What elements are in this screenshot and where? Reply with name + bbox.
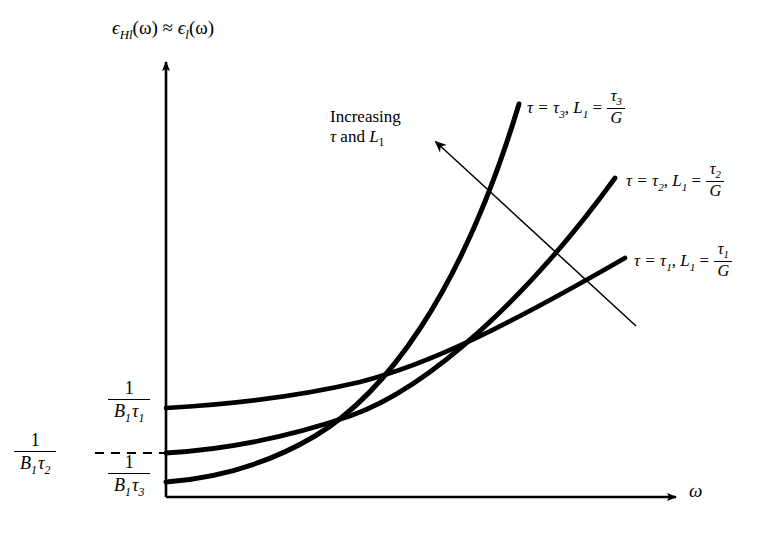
curve1-tau-eq: τ = τ — [634, 251, 666, 270]
figure-canvas: ϵHl(ω) ≈ ϵl(ω) ω Increasing τ and L1 τ =… — [0, 0, 780, 533]
curve3-frac-denominator: G — [607, 108, 625, 126]
curve2-frac-denominator: G — [706, 181, 724, 199]
curve1-frac-denominator: G — [714, 261, 732, 279]
x-axis-label: ω — [689, 481, 702, 501]
curve-tau1 — [166, 258, 625, 408]
L-symbol: L — [369, 127, 378, 146]
curve3-tau-eq: τ = τ — [527, 98, 559, 117]
curve3-fraction: τ3G — [607, 87, 625, 126]
epsilon-Hl-argument: (ω) — [133, 17, 158, 38]
curve1-L: L — [680, 251, 689, 270]
curve-label-tau2: τ = τ2, L1 = τ2G — [626, 163, 725, 202]
curve2-comma: , — [664, 171, 673, 190]
curve2-fraction: τ2G — [706, 160, 724, 199]
curve1-frac-numerator: τ1 — [715, 240, 732, 261]
curve-tau3 — [166, 104, 519, 482]
curve1-equals: = — [695, 251, 713, 270]
curve-label-tau1: τ = τ1, L1 = τ1G — [634, 243, 733, 282]
increasing-line1: Increasing — [330, 107, 401, 126]
curve1-fraction: τ1G — [714, 240, 732, 279]
y-axis-label: ϵHl(ω) ≈ ϵl(ω) — [112, 18, 214, 41]
val3-numerator: 1 — [108, 452, 150, 473]
curve1-comma: , — [672, 251, 681, 270]
curve2-frac-numerator: τ2 — [707, 160, 724, 181]
curve3-frac-numerator: τ3 — [608, 87, 625, 108]
approx-symbol: ≈ — [162, 17, 172, 38]
L-subscript: 1 — [379, 136, 385, 149]
curve-label-tau3: τ = τ3, L1 = τ3G — [527, 90, 626, 129]
curve2-equals: = — [687, 171, 705, 190]
curve2-L: L — [672, 171, 681, 190]
epsilon-Hl-symbol: ϵ — [112, 17, 120, 38]
curve3-comma: , — [565, 98, 574, 117]
y-value-1-over-B1tau3: 1 B1τ3 — [108, 452, 150, 500]
curve3-equals: = — [588, 98, 606, 117]
y-value-1-over-B1tau2: 1 B1τ2 — [14, 430, 56, 478]
val1-numerator: 1 — [108, 378, 150, 399]
val3-denominator: B1τ3 — [108, 473, 150, 500]
curve2-tau-eq: τ = τ — [626, 171, 658, 190]
increasing-arrow — [436, 142, 636, 326]
curve-tau2 — [166, 178, 615, 453]
and-text: and — [336, 127, 369, 146]
epsilon-Hl-subscript: Hl — [120, 27, 133, 42]
curve3-L: L — [573, 98, 582, 117]
increasing-line2: τ and L1 — [330, 128, 401, 150]
val2-denominator: B1τ2 — [14, 451, 56, 478]
y-value-1-over-B1tau1: 1 B1τ1 — [108, 378, 150, 426]
epsilon-l-argument: (ω) — [189, 17, 214, 38]
val2-numerator: 1 — [14, 430, 56, 451]
val1-denominator: B1τ1 — [108, 399, 150, 426]
increasing-annotation: Increasing τ and L1 — [330, 108, 401, 149]
